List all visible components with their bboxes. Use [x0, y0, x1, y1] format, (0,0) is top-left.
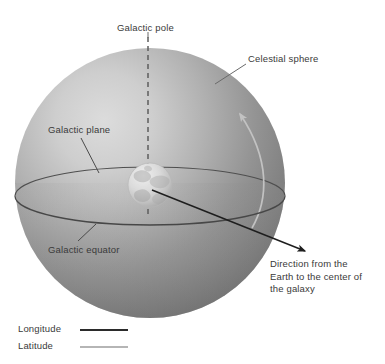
- legend-swatch-longitude-line: [80, 329, 128, 331]
- diagram-canvas: [0, 0, 385, 364]
- legend-swatch-latitude-line: [80, 346, 128, 348]
- legend-item-latitude: Latitude: [18, 339, 138, 356]
- direction-line-3: the galaxy: [270, 283, 382, 296]
- direction-line-2: Earth to the center of: [270, 271, 382, 284]
- galactic-coordinates-diagram: Galactic pole Celestial sphere Galactic …: [0, 0, 385, 364]
- label-direction-to-galactic-center: Direction from the Earth to the center o…: [270, 258, 382, 296]
- legend-label-latitude: Latitude: [18, 340, 53, 351]
- legend-label-longitude: Longitude: [18, 323, 61, 334]
- label-celestial-sphere: Celestial sphere: [248, 53, 319, 66]
- label-galactic-plane: Galactic plane: [48, 124, 110, 137]
- legend-item-longitude: Longitude: [18, 322, 138, 339]
- label-galactic-pole: Galactic pole: [117, 22, 174, 35]
- direction-line-1: Direction from the: [270, 258, 382, 271]
- legend: Longitude Latitude: [18, 322, 138, 356]
- label-galactic-equator: Galactic equator: [48, 244, 120, 257]
- earth-globe: [128, 163, 172, 207]
